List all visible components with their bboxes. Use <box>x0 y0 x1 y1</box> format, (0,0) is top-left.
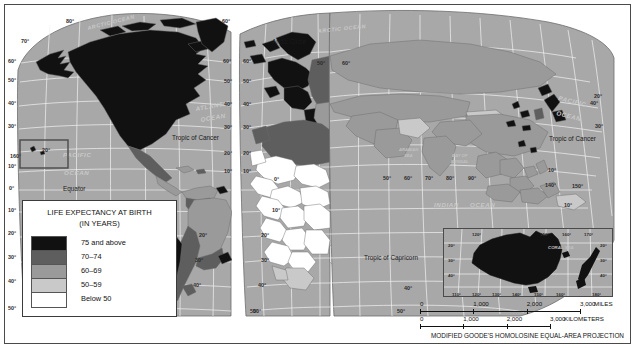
miles-scale: 01,0002,0003,000MILES <box>420 300 635 315</box>
latitude-label: 50° <box>397 308 405 314</box>
latitude-label: 40° <box>224 101 232 107</box>
latitude-label: 10° <box>8 207 16 213</box>
inset-longitude-label-bottom: 110° <box>452 292 461 297</box>
longitude-label: 50° <box>317 60 325 66</box>
miles-scale-tick <box>580 309 581 314</box>
legend-label-0: 75 and above <box>81 236 126 250</box>
map-figure: ARCTIC OCEANARCTIC OCEANATLANTICOCEANPAC… <box>0 0 635 348</box>
latitude-label: 30° <box>8 254 16 260</box>
legend-labels: 75 and above70–7460–6950–59Below 50 <box>81 236 126 308</box>
legend-swatch-0 <box>32 237 66 251</box>
legend-swatch-2 <box>32 265 66 279</box>
inset-longitude-label-bottom: 150° <box>534 292 543 297</box>
latitude-label: 40° <box>243 101 251 107</box>
latitude-label: 80° <box>66 18 74 24</box>
latitude-label: 60° <box>243 58 251 64</box>
legend-title-line1: LIFE EXPECTANCY AT BIRTH <box>31 208 168 219</box>
legend-label-1: 70–74 <box>81 250 126 264</box>
longitude-label: 80° <box>446 175 454 181</box>
latitude-label: 50° <box>253 308 261 314</box>
latitude-label: 70° <box>21 38 29 44</box>
lobe-europe-africa <box>239 13 342 316</box>
miles-scale-tick-label: 0 <box>420 300 423 307</box>
inset-coral-sea-label: CORAL SEA <box>548 245 574 250</box>
longitude-label: 90° <box>468 175 476 181</box>
inset-longitude-label-top: 150° <box>540 232 549 237</box>
latitude-label: 40° <box>8 100 16 106</box>
inset-latitude-label: 40° <box>448 273 455 278</box>
legend-label-2: 60–69 <box>81 264 126 278</box>
kilometers-scale-tick <box>507 324 508 329</box>
reference-line-label: Tropic of Cancer <box>172 134 220 142</box>
latitude-label: 20° <box>243 150 251 156</box>
inset-longitude-label-bottom: 180° <box>592 292 601 297</box>
map-legend: LIFE EXPECTANCY AT BIRTH (IN YEARS) 75 a… <box>22 200 177 317</box>
latitude-label: 60° <box>222 18 230 24</box>
kilometers-scale-tick-label: 1,000 <box>463 315 478 322</box>
ocean-label: OCEAN <box>64 169 89 176</box>
legend-label-4: Below 50 <box>81 292 126 306</box>
sea-label: ARABIAN <box>398 147 419 152</box>
miles-scale-tick <box>527 309 528 314</box>
latitude-label: 40° <box>590 100 598 106</box>
latitude-label: 20° <box>224 150 232 156</box>
miles-scale-unit: MILES <box>594 300 613 307</box>
inset-longitude-label-bottom: 130° <box>492 292 501 297</box>
inset-longitude-label-top: 160° <box>562 232 571 237</box>
latitude-label: 30° <box>8 123 16 129</box>
sea-label: BENGAL <box>451 159 469 164</box>
latitude-label: 30° <box>195 257 203 263</box>
latitude-label: 30° <box>595 123 603 129</box>
latitude-label: 20° <box>42 147 50 153</box>
longitude-label: 60° <box>342 60 350 66</box>
inset-latitude-label: 30° <box>448 258 455 263</box>
inset-longitude-label-top: 170° <box>584 232 593 237</box>
miles-scale-tick-label: 2,000 <box>527 300 542 307</box>
reference-line-label: Tropic of Cancer <box>549 135 597 143</box>
reference-line-label: Equator <box>63 185 86 193</box>
inset-latitude-label: 30° <box>600 258 607 263</box>
scale-bars: 01,0002,0003,000MILES 01,0002,0003,000KI… <box>420 300 635 330</box>
miles-scale-tick <box>473 309 474 314</box>
ocean-label: INDIAN <box>434 201 459 208</box>
kilometers-scale-tick <box>420 324 421 329</box>
longitude-label: 50° <box>383 175 391 181</box>
latitude-label: 60° <box>8 58 16 64</box>
latitude-label: 10° <box>564 202 572 208</box>
inset-longitude-labels-bottom: 110°120°130°140°150°160°180° <box>452 292 601 297</box>
reference-line-label: Arctic Circle <box>272 38 307 45</box>
inset-latitude-label: 40° <box>600 273 607 278</box>
inset-longitude-label-bottom: 160° <box>556 292 565 297</box>
latitude-label: 10° <box>8 163 16 169</box>
latitude-label: 30° <box>243 124 251 130</box>
latitude-label: 30° <box>224 124 232 130</box>
kilometers-scale-unit: KILOMETERS <box>564 315 604 322</box>
latitude-label: 50° <box>224 78 232 84</box>
miles-scale-tick <box>420 309 421 314</box>
inset-longitude-label-top: 120° <box>472 232 481 237</box>
kilometers-scale-tick <box>550 324 551 329</box>
legend-title-line2: (IN YEARS) <box>31 219 168 230</box>
latitude-label: 10° <box>272 207 280 213</box>
legend-swatch-4 <box>32 293 66 307</box>
longitude-label: 150° <box>572 183 583 189</box>
longitude-label: 70° <box>425 175 433 181</box>
kilometers-scale-tick-label: 0 <box>420 315 423 322</box>
latitude-label: 10° <box>548 167 556 173</box>
latitude-label: 30° <box>261 257 269 263</box>
legend-title: LIFE EXPECTANCY AT BIRTH (IN YEARS) <box>31 208 168 229</box>
latitude-label: 40° <box>258 282 266 288</box>
latitude-label: 40° <box>193 282 201 288</box>
latitude-label: 20° <box>8 230 16 236</box>
latitude-label: 20° <box>594 93 602 99</box>
sea-label: BAY OF <box>452 153 468 158</box>
kilometers-scale: 01,0002,0003,000KILOMETERS <box>420 315 635 330</box>
ocean-label: OCEAN <box>470 201 495 208</box>
latitude-label: 10° <box>243 168 251 174</box>
projection-note: MODIFIED GOODE'S HOMOLOSINE EQUAL-AREA P… <box>420 332 635 339</box>
longitude-label: 140° <box>545 182 556 188</box>
inset-latitude-label: 20° <box>600 243 607 248</box>
kilometers-scale-tick-label: 2,000 <box>507 315 522 322</box>
longitude-label: 60° <box>404 175 412 181</box>
kilometers-scale-tick <box>463 324 464 329</box>
